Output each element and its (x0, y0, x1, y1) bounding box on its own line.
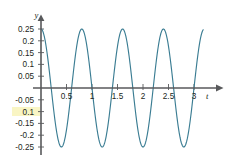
x-tick-label: 3 (192, 92, 197, 101)
y-tick-label: 0.1 (23, 108, 35, 117)
x-tick-label: 1.5 (112, 92, 124, 101)
chart-figure: 0.25 0.2 0.15 0.1 0.05 -0.05 0.1 -0.15 -… (0, 0, 233, 161)
x-tick-labels: 0.5 1 1.5 2 2.5 3 (61, 92, 197, 101)
y-tick-labels: 0.25 0.2 0.15 0.1 0.05 -0.05 0.1 -0.15 -… (15, 25, 34, 152)
y-tick-label: 0.25 (18, 25, 34, 34)
x-tick-label: 2 (141, 92, 146, 101)
y-tick-label: 0.2 (23, 37, 35, 46)
x-tick-label: 0.5 (61, 92, 73, 101)
y-tick-label: -0.2 (20, 131, 35, 140)
y-tick-label: 0.15 (18, 49, 34, 58)
y-tick-label: -0.15 (15, 119, 34, 128)
x-tick-label: 1 (90, 92, 95, 101)
cosine-wave-plot: 0.25 0.2 0.15 0.1 0.05 -0.05 0.1 -0.15 -… (0, 0, 233, 161)
y-tick-label: 0.05 (18, 72, 34, 81)
x-tick-marks (67, 84, 195, 90)
y-axis-arrow (38, 15, 45, 22)
x-axis-arrow (216, 85, 224, 92)
x-tick-label: 2.5 (163, 92, 175, 101)
y-tick-label: -0.25 (15, 143, 34, 152)
y-tick-label: -0.05 (15, 96, 34, 105)
y-axis-name: y (34, 10, 39, 20)
y-axis (38, 15, 45, 156)
y-tick-label: 0.1 (23, 60, 35, 69)
x-axis-name: t (206, 91, 209, 101)
x-axis (33, 85, 224, 92)
